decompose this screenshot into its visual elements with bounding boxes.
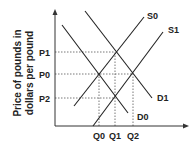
curve-d1 bbox=[85, 11, 152, 98]
x-axis-arrow-icon bbox=[183, 124, 189, 129]
y-axis-label-line-2: dollars per pound bbox=[24, 31, 35, 115]
curve-label-s1: S1 bbox=[168, 25, 179, 35]
y-axis-label: Price of pounds in dollars per pound bbox=[12, 29, 35, 116]
y-axis-label-line-1: Price of pounds in bbox=[12, 29, 23, 116]
supply-demand-diagram: Price of pounds in dollars per pound S0S… bbox=[0, 0, 191, 146]
curve-d0 bbox=[62, 25, 128, 113]
y-tick-p1: P1 bbox=[39, 48, 50, 58]
curve-label-d1: D1 bbox=[157, 93, 169, 103]
guide-lines bbox=[55, 52, 133, 126]
curve-s1 bbox=[93, 32, 163, 126]
x-tick-q2: Q2 bbox=[127, 131, 139, 141]
x-tick-q0: Q0 bbox=[93, 131, 105, 141]
y-tick-p0: P0 bbox=[39, 70, 50, 80]
y-tick-p2: P2 bbox=[39, 94, 50, 104]
curve-label-d0: D0 bbox=[137, 112, 149, 122]
x-tick-q1: Q1 bbox=[109, 131, 121, 141]
y-axis-arrow-icon bbox=[53, 9, 58, 15]
curves: S0S1D0D1 bbox=[62, 11, 179, 126]
curve-s0 bbox=[74, 17, 144, 106]
curve-label-s0: S0 bbox=[147, 11, 158, 21]
